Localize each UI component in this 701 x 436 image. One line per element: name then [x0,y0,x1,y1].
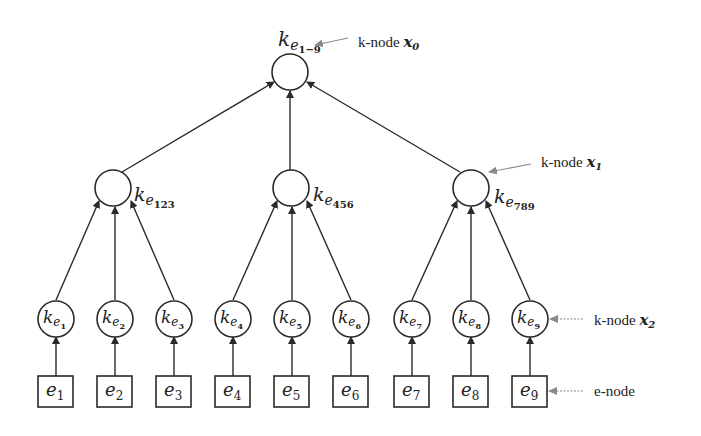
annotation-knode-x0: k-node x0 [315,33,419,52]
leaf-knode-3: ke3 [156,301,192,337]
mid-knode-789: ke789 [453,170,535,212]
edge-k1-to-k123 [56,201,99,300]
mid-knode-123: ke123 [95,170,175,210]
annotation-enode: e-node [549,383,635,399]
leaf-knode-1: ke1 [38,301,74,337]
edge-k6-to-k456 [307,201,351,300]
leaf-knode-9: ke9 [512,301,548,337]
annotation-knode-x2: k-node x2 [550,311,655,330]
annotation-label: k-node x1 [541,153,602,172]
root-knode-circle [272,54,308,90]
leaf-knode-5: ke5 [274,301,310,337]
annotation-label: k-node x2 [594,311,655,330]
edge-k789-to-root [307,82,460,172]
leaf-knode-2: ke2 [97,301,133,337]
enodes: e1 e2 e3 e4 e5 e6 e7 e8 [38,376,547,407]
edges-enode-to-knode [56,337,530,376]
mid-knode-label: ke123 [134,183,175,210]
leaf-knode-8: ke8 [453,301,489,337]
root-knode-label: ke1−9 [278,27,321,55]
enode-2: e2 [97,376,132,407]
enode-4: e4 [215,376,250,407]
enode-8: e8 [453,376,488,407]
enode-9: e9 [512,376,547,407]
mid-knode-label: ke456 [313,183,354,210]
enode-5: e5 [274,376,309,407]
edges-leaf-to-mid [56,201,530,300]
enode-1: e1 [38,376,73,407]
edge-k3-to-k123 [131,201,174,300]
mid-knode-456: ke456 [273,170,354,210]
mid-knode-label: ke789 [494,185,535,212]
annotations: k-node x0 k-node x1 k-node x2 e-node [315,33,655,399]
leaf-knode-6: ke6 [333,301,369,337]
annotation-label: k-node x0 [358,33,419,52]
mid-knodes: ke123 ke456 ke789 [95,170,535,212]
annotation-label: e-node [594,383,635,399]
enode-6: e6 [333,376,368,407]
root-knode: ke1−9 [272,27,321,90]
annotation-knode-x1: k-node x1 [489,153,602,172]
annotation-arrow-icon [489,164,531,172]
annotation-arrow-icon [315,38,348,45]
edge-k123-to-root [122,82,274,172]
enode-7: e7 [394,376,429,407]
k-node-tree-diagram: ke1−9 ke123 ke456 ke789 ke1 [0,0,701,436]
leaf-knode-4: ke4 [215,301,251,337]
leaf-knodes: ke1 ke2 ke3 ke4 ke5 ke6 ke7 ke8 [38,301,548,337]
edge-k7-to-k789 [412,201,457,300]
mid-knode-circle [273,170,309,206]
edge-k4-to-k456 [233,201,277,300]
enode-3: e3 [156,376,191,407]
edges-mid-to-root [122,82,460,172]
leaf-knode-7: ke7 [394,301,430,337]
mid-knode-circle [95,170,131,206]
mid-knode-circle [453,170,489,206]
edge-k9-to-k789 [486,201,530,300]
